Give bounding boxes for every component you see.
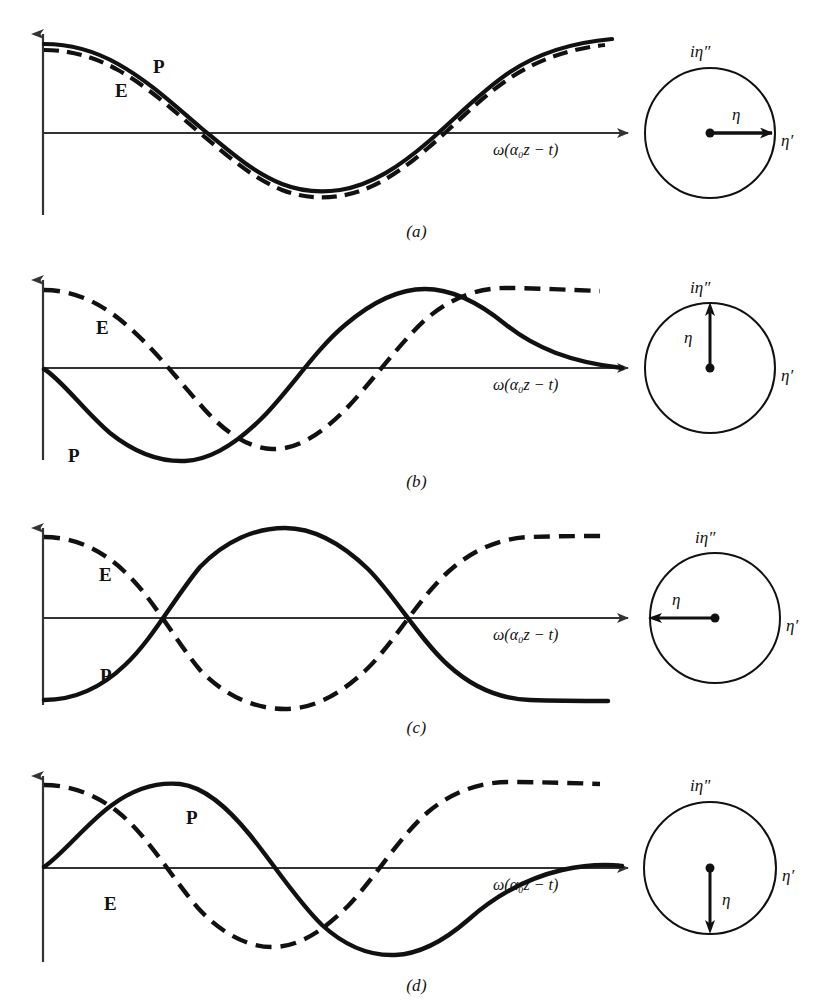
x-axis-label-text: ω(α₀z − t): [493, 141, 558, 158]
imag-axis-label: iη″: [690, 278, 710, 298]
x-axis-label-text: ω(α₀z − t): [493, 626, 558, 643]
curve-label-P: P: [100, 665, 112, 687]
panel-caption-a: (a): [0, 222, 833, 242]
panel-c: E P ω(α₀z − t) iη″ η′ η (c): [0, 500, 833, 750]
panel-caption-b: (b): [0, 472, 833, 492]
panel-d: P E ω(α₀z − t) iη″ η′ η (d): [0, 750, 833, 1004]
curve-P: [44, 39, 612, 191]
panel-b-phasor: [645, 302, 775, 433]
x-axis-label: ω(α₀z − t): [493, 626, 558, 644]
real-axis-label: η′: [781, 131, 793, 151]
figure-root: P E ω(α₀z − t) iη″ η′ η (a): [0, 0, 833, 1004]
x-axis-label: ω(α₀z − t): [493, 141, 558, 159]
eta-label: η: [732, 105, 740, 125]
curve-E: [44, 536, 608, 709]
panel-b-axes: [43, 280, 628, 460]
real-axis-label: η′: [782, 866, 794, 886]
curve-label-P: P: [153, 56, 165, 78]
panel-a: P E ω(α₀z − t) iη″ η′ η (a): [0, 0, 833, 250]
curve-label-P: P: [68, 445, 80, 467]
curve-label-E: E: [96, 317, 109, 339]
eta-label: η: [684, 328, 692, 348]
curve-P: [44, 784, 622, 955]
curve-P: [44, 528, 608, 701]
panel-c-phasor: [648, 553, 780, 683]
real-axis-label: η′: [781, 366, 793, 386]
imag-axis-label: iη″: [690, 776, 710, 796]
panel-caption-d: (d): [0, 976, 833, 996]
eta-label: η: [672, 590, 680, 610]
panel-a-phasor: [645, 68, 775, 198]
curve-label-E: E: [104, 893, 117, 915]
x-axis-label: ω(α₀z − t): [493, 876, 558, 894]
imag-axis-label: iη″: [695, 528, 715, 548]
x-axis-label-text: ω(α₀z − t): [493, 876, 558, 893]
panel-b: E P ω(α₀z − t) iη″ η′ η (b): [0, 250, 833, 500]
curve-label-E: E: [115, 80, 128, 102]
panel-d-phasor: [644, 802, 776, 934]
curve-label-E: E: [99, 564, 112, 586]
panel-caption-c: (c): [0, 718, 833, 738]
curve-label-P: P: [186, 807, 198, 829]
x-axis-label: ω(α₀z − t): [493, 376, 558, 394]
imag-axis-label: iη″: [690, 42, 710, 62]
real-axis-label: η′: [786, 616, 798, 636]
x-axis-label-text: ω(α₀z − t): [493, 376, 558, 393]
eta-label: η: [722, 890, 730, 910]
panel-a-svg: [0, 0, 833, 250]
panel-c-axes: [43, 528, 628, 705]
